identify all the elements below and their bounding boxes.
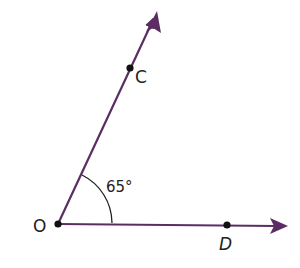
point-o-dot bbox=[54, 220, 61, 227]
point-d-dot bbox=[223, 221, 230, 228]
label-o: O bbox=[33, 216, 46, 236]
point-c-dot bbox=[126, 64, 133, 71]
label-c: C bbox=[135, 67, 147, 87]
ray-od bbox=[58, 224, 276, 226]
angle-diagram: O C D 65° bbox=[0, 0, 300, 268]
ray-oc-arrowhead-icon bbox=[146, 11, 161, 33]
label-d: D bbox=[219, 234, 232, 254]
angle-label: 65° bbox=[106, 178, 133, 196]
